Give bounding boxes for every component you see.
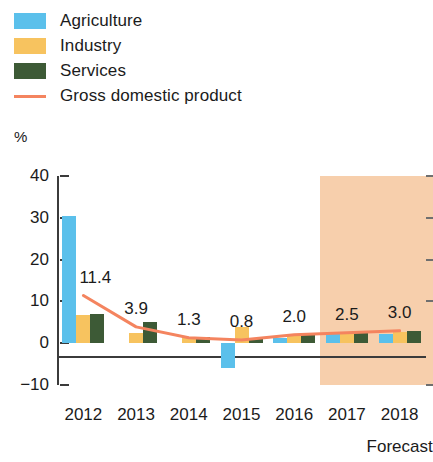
forecast-caption: Forecast (367, 437, 433, 457)
y-tick-label: 40 (30, 166, 49, 186)
gdp-value-label-2016: 2.0 (282, 307, 306, 327)
chart-legend: Agriculture Industry Services Gross dome… (14, 8, 242, 108)
x-axis-label-2017: 2017 (328, 405, 366, 425)
legend-label-gdp: Gross domestic product (60, 86, 242, 106)
x-axis-label-2018: 2018 (381, 405, 419, 425)
y-tick-mark-right (426, 217, 433, 219)
legend-label-agriculture: Agriculture (60, 11, 142, 31)
y-tick-mark-right (426, 175, 433, 177)
legend-item-industry: Industry (14, 33, 242, 58)
gdp-value-label-2015: 0.8 (230, 312, 254, 332)
y-tick-mark-right (426, 300, 433, 302)
y-tick-label: 0 (40, 333, 49, 353)
y-tick-label: −10 (20, 375, 49, 395)
y-tick-label: 10 (30, 291, 49, 311)
y-tick-mark-right (426, 384, 433, 386)
gdp-value-label-2018: 3.0 (388, 303, 412, 323)
x-axis-label-2016: 2016 (275, 405, 313, 425)
x-axis-label-2015: 2015 (223, 405, 261, 425)
y-tick-label: 20 (30, 250, 49, 270)
y-tick-label: 30 (30, 208, 49, 228)
gdp-value-label-2014: 1.3 (177, 310, 201, 330)
gdp-value-label-2012: 11.4 (79, 268, 111, 288)
legend-swatch-services (14, 63, 46, 79)
gdp-value-label-2013: 3.9 (124, 299, 148, 319)
x-axis-label-2013: 2013 (117, 405, 155, 425)
legend-swatch-industry (14, 38, 46, 54)
legend-item-gdp: Gross domestic product (14, 83, 242, 108)
x-axis-label-2012: 2012 (64, 405, 102, 425)
legend-line-gdp (14, 88, 46, 104)
y-tick-mark-right (426, 259, 433, 261)
chart-container: Agriculture Industry Services Gross dome… (0, 0, 433, 462)
y-axis-unit-label: % (14, 128, 27, 145)
x-axis-label-2014: 2014 (170, 405, 208, 425)
plot-area: 403020100−10 (57, 176, 426, 385)
gdp-value-label-2017: 2.5 (335, 305, 359, 325)
gdp-line-series (57, 176, 426, 385)
legend-label-industry: Industry (60, 36, 121, 56)
legend-item-agriculture: Agriculture (14, 8, 242, 33)
legend-item-services: Services (14, 58, 242, 83)
legend-swatch-agriculture (14, 13, 46, 29)
legend-label-services: Services (60, 61, 126, 81)
